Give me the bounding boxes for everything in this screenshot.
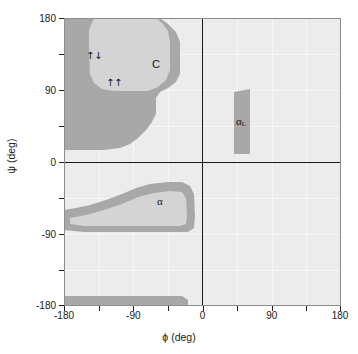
- y-tick-label: 0: [28, 157, 56, 168]
- x-axis-title: ϕ (deg): [0, 331, 358, 343]
- annotation-parallel-beta: ↑↑: [106, 78, 122, 88]
- y-tick: [59, 90, 64, 91]
- x-tick: [99, 306, 100, 311]
- bottom-band-region: [64, 296, 188, 306]
- x-tick: [306, 306, 307, 311]
- annotation-collagen-helix: C: [152, 59, 160, 70]
- y-tick-label: -90: [28, 229, 56, 240]
- y-tick: [59, 126, 64, 127]
- y-tick: [59, 54, 64, 55]
- y-tick: [59, 270, 64, 271]
- y-tick-label: 180: [28, 13, 56, 24]
- ramachandran-plot-figure: ↑↓ ↑↑ C αL α -180 -90 0 90 180 180 90 0 …: [0, 0, 358, 354]
- y-tick-label: -180: [28, 300, 56, 311]
- y-tick: [59, 305, 64, 306]
- y-tick: [59, 198, 64, 199]
- x-tick-label: 90: [266, 310, 277, 321]
- plot-area: ↑↓ ↑↑ C αL α: [64, 18, 341, 306]
- y-tick-label: 90: [28, 85, 56, 96]
- x-tick-label: -180: [54, 310, 74, 321]
- x-tick-label: -90: [126, 310, 140, 321]
- x-tick-label: 0: [200, 310, 206, 321]
- annotation-alpha-right: α: [157, 196, 163, 207]
- x-tick: [237, 306, 238, 311]
- alpha-left-subscript: L: [242, 120, 246, 128]
- annotation-alpha-left: αL: [236, 116, 246, 128]
- annotation-antiparallel-beta: ↑↓: [86, 51, 102, 61]
- x-tick-label: 180: [332, 310, 349, 321]
- x-tick: [168, 306, 169, 311]
- y-tick: [59, 234, 64, 235]
- psi-zero-axis-line: [64, 162, 341, 163]
- y-axis-title: ψ (deg): [5, 101, 17, 211]
- y-tick: [59, 18, 64, 19]
- y-tick: [59, 162, 64, 163]
